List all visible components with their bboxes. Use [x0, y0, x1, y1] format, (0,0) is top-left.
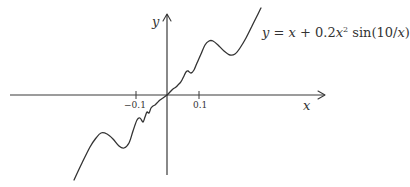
formula-sin: sin(10/ — [348, 25, 397, 40]
y-axis-label: y — [152, 15, 159, 28]
formula-x2: x — [336, 25, 343, 40]
tick-label-pos: 0.1 — [193, 101, 207, 110]
formula-close: ) — [405, 25, 410, 40]
formula-eq: = — [269, 25, 288, 40]
tick-label-neg: −0.1 — [124, 101, 146, 110]
formula-coef: + 0.2 — [296, 25, 336, 40]
x-axis-label: x — [303, 99, 310, 112]
formula-x3: x — [397, 25, 404, 40]
formula-label: y = x + 0.2x2 sin(10/x) — [262, 26, 410, 39]
formula-x1: x — [289, 25, 296, 40]
